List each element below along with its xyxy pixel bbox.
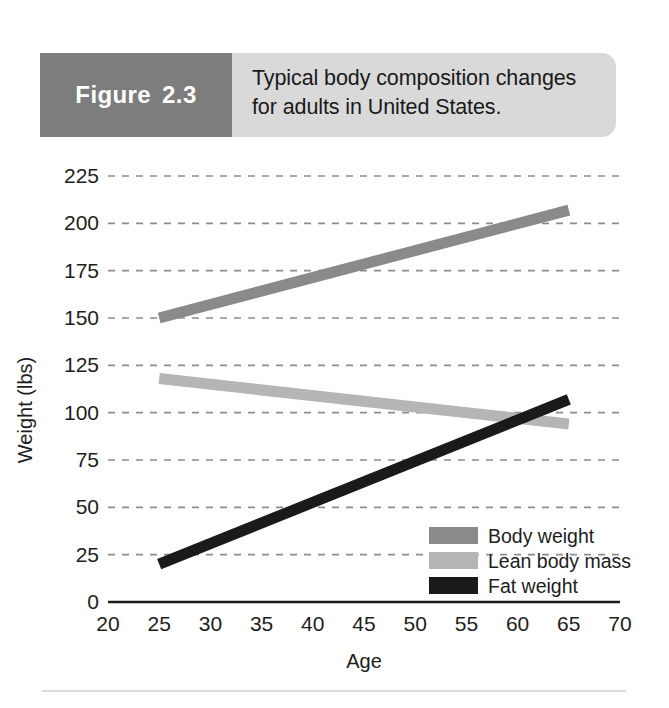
chart-legend: Body weightLean body massFat weight [429,525,631,597]
legend-swatch [429,527,478,544]
y-axis-tick-label: 50 [76,495,99,518]
gridlines [108,176,620,555]
x-axis-tick-label: 45 [352,612,375,635]
y-axis-tick-label: 75 [76,448,99,471]
x-axis-tick-label: 40 [301,612,324,635]
x-axis-tick-label: 35 [250,612,273,635]
x-axis-tick-label: 65 [557,612,580,635]
y-axis-tick-labels: 0255075100125150175200225 [64,164,99,613]
y-axis-tick-label: 150 [64,306,99,329]
bottom-divider [42,690,626,692]
data-series-group [159,210,569,564]
x-axis-tick-label: 20 [96,612,119,635]
legend-swatch [429,577,478,594]
chart-svg: 0255075100125150175200225 20253035404550… [0,0,669,708]
y-axis-tick-label: 200 [64,211,99,234]
y-axis-title: Weight (lbs) [14,357,36,463]
y-axis-tick-label: 25 [76,543,99,566]
series-line-lean-body-mass [159,379,569,424]
legend-label: Fat weight [488,575,579,597]
x-axis-tick-label: 25 [148,612,171,635]
x-axis-tick-label: 50 [404,612,427,635]
legend-label: Lean body mass [488,550,631,572]
line-chart: 0255075100125150175200225 20253035404550… [0,0,669,708]
x-axis-tick-labels: 2025303540455055606570 [96,612,631,635]
x-axis-title: Age [346,650,382,672]
y-axis-tick-label: 225 [64,164,99,187]
legend-swatch [429,552,478,569]
x-axis-tick-label: 60 [506,612,529,635]
y-axis-tick-label: 0 [87,590,99,613]
legend-label: Body weight [488,525,595,547]
y-axis-tick-label: 175 [64,259,99,282]
series-line-body-weight [159,210,569,318]
y-axis-tick-label: 100 [64,401,99,424]
x-axis-tick-label: 70 [608,612,631,635]
x-axis-tick-label: 55 [455,612,478,635]
x-axis-tick-label: 30 [199,612,222,635]
y-axis-tick-label: 125 [64,353,99,376]
